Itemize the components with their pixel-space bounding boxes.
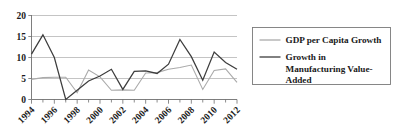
y-tick-label-20: 20 [17,11,27,21]
legend-label-gdp-per-capita-growth: GDP per Capita Growth [286,35,382,45]
gridlines [32,16,238,79]
x-tick-label-1994: 1994 [16,105,37,126]
legend: GDP per Capita GrowthGrowth inManufactur… [253,28,391,85]
line-chart: 0510152019941996199820002002200420062008… [0,0,397,138]
chart-canvas: 0510152019941996199820002002200420062008… [0,0,397,138]
legend-label-line-1: Growth in [286,52,326,62]
legend-label-line-3: Added [286,75,312,85]
series-group [32,35,238,100]
y-tick-label-10: 10 [17,53,27,63]
x-tick-label-1998: 1998 [62,105,83,126]
y-axis-ticks: 05101520 [17,11,32,105]
y-tick-label-0: 0 [21,95,26,105]
x-tick-label-2010: 2010 [199,105,220,126]
x-tick-label-2008: 2008 [176,105,197,126]
x-tick-label-2002: 2002 [107,105,128,126]
x-axis-ticks: 1994199619982000200220042006200820102012 [16,100,242,126]
x-tick-label-1996: 1996 [39,105,60,126]
x-tick-label-2012: 2012 [221,105,242,126]
legend-label-line-2: Manufacturing Value- [286,64,373,74]
x-tick-label-2006: 2006 [153,105,174,126]
y-tick-label-15: 15 [17,32,27,42]
x-tick-label-2004: 2004 [130,105,151,126]
y-tick-label-5: 5 [21,74,26,84]
x-tick-label-2000: 2000 [84,105,105,126]
